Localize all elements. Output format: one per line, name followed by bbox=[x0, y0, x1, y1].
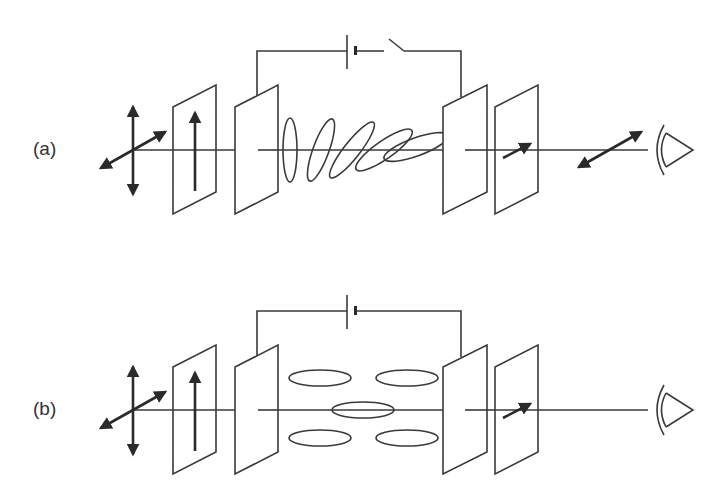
molecule bbox=[376, 430, 438, 446]
panel-a: (a) bbox=[33, 35, 693, 214]
panel-b: (b) bbox=[33, 295, 693, 474]
molecule bbox=[289, 430, 351, 446]
switch-open bbox=[389, 39, 404, 51]
battery-short-plate bbox=[354, 306, 357, 315]
molecule bbox=[376, 370, 438, 386]
circuit bbox=[257, 35, 461, 97]
panel-label: (a) bbox=[33, 138, 56, 159]
eye-icon bbox=[657, 385, 693, 435]
output-polarizer bbox=[495, 345, 538, 474]
circuit bbox=[257, 295, 461, 357]
battery-short-plate bbox=[354, 46, 357, 55]
input-polarizer bbox=[173, 85, 216, 214]
molecule bbox=[289, 370, 351, 386]
liquid-crystal-molecules bbox=[289, 370, 438, 446]
output-polarizer bbox=[495, 85, 538, 214]
eye-icon bbox=[657, 125, 693, 175]
input-polarizer bbox=[173, 345, 216, 474]
panel-label: (b) bbox=[33, 398, 56, 419]
lcd-diagram: (a) bbox=[0, 0, 719, 498]
molecule bbox=[381, 127, 451, 167]
